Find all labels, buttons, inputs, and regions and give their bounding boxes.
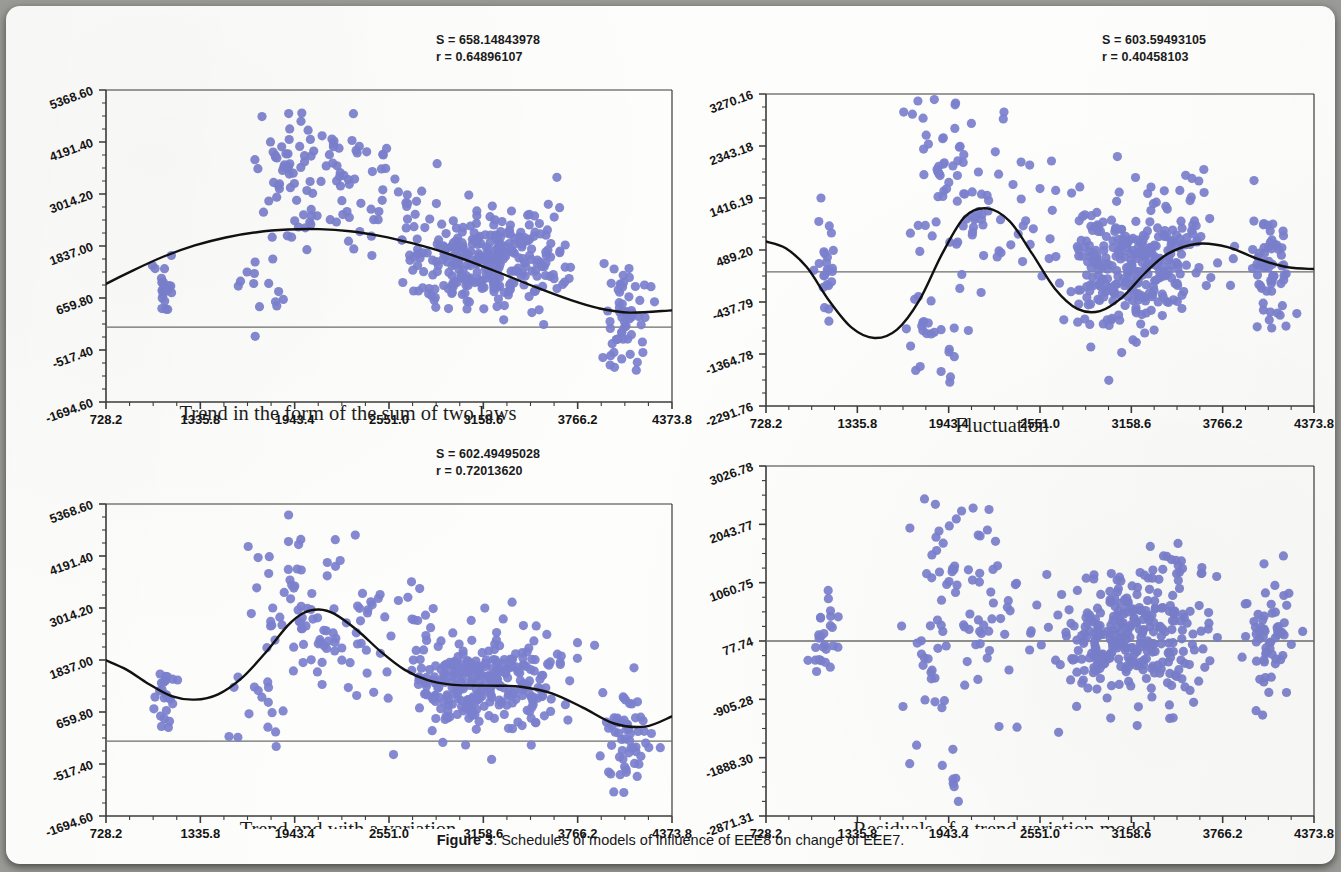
y-axis-tick-label: 1416.19 xyxy=(708,192,755,221)
data-point xyxy=(1106,621,1115,630)
figure-caption-label: Figure 3 xyxy=(437,832,493,848)
data-point xyxy=(1123,607,1132,616)
data-point xyxy=(374,207,383,216)
data-point xyxy=(457,659,466,668)
data-point xyxy=(555,247,564,256)
data-point xyxy=(268,708,277,717)
data-point xyxy=(950,324,959,333)
data-point xyxy=(431,293,440,302)
data-point xyxy=(1238,653,1247,662)
data-point xyxy=(1017,158,1026,167)
data-point xyxy=(1146,183,1155,192)
data-point xyxy=(507,206,516,215)
data-point xyxy=(535,219,544,228)
data-point xyxy=(604,767,613,776)
data-point xyxy=(1021,216,1030,225)
data-point xyxy=(573,654,582,663)
data-point xyxy=(352,691,361,700)
data-point xyxy=(330,638,339,647)
data-point xyxy=(285,124,294,133)
data-point xyxy=(533,272,542,281)
data-point xyxy=(157,678,166,687)
data-point xyxy=(1089,663,1098,672)
data-point xyxy=(1104,376,1113,385)
data-point xyxy=(1029,224,1038,233)
data-point xyxy=(162,706,171,715)
data-point xyxy=(1168,591,1177,600)
data-point xyxy=(499,614,508,623)
y-axis-tick-label: -437.79 xyxy=(710,296,755,324)
data-point xyxy=(281,149,290,158)
data-point xyxy=(1197,569,1206,578)
data-point xyxy=(426,623,435,632)
data-point xyxy=(1012,723,1021,732)
data-point xyxy=(964,565,973,574)
data-point xyxy=(1137,237,1146,246)
data-point xyxy=(1146,542,1155,551)
data-point xyxy=(1150,240,1159,249)
data-point xyxy=(951,100,960,109)
data-point xyxy=(1147,684,1156,693)
data-point xyxy=(921,221,930,230)
panel-caption-2: Trend and with a variation xyxy=(18,818,678,829)
data-point xyxy=(1133,583,1142,592)
data-point xyxy=(467,636,476,645)
data-point xyxy=(289,643,298,652)
data-point xyxy=(520,258,529,267)
plot-data-area xyxy=(106,71,672,375)
data-point xyxy=(1072,636,1081,645)
data-point xyxy=(1124,653,1133,662)
data-point xyxy=(1131,306,1140,315)
data-point xyxy=(826,621,835,630)
data-point xyxy=(834,612,843,621)
data-point xyxy=(1287,640,1296,649)
plot-data-area xyxy=(766,95,1314,387)
data-point xyxy=(160,264,169,273)
data-point xyxy=(609,348,618,357)
data-point xyxy=(1170,279,1179,288)
data-point xyxy=(263,723,272,732)
y-axis-tick-label: 3014.20 xyxy=(48,188,95,217)
data-point xyxy=(619,335,628,344)
data-point xyxy=(1045,254,1054,263)
data-point xyxy=(1173,539,1182,548)
data-point xyxy=(931,500,940,509)
data-point xyxy=(164,284,173,293)
data-point xyxy=(607,279,616,288)
data-point xyxy=(1046,234,1055,243)
data-point xyxy=(1048,206,1057,215)
data-point xyxy=(1281,322,1290,331)
data-point xyxy=(382,667,391,676)
data-point xyxy=(447,282,456,291)
data-point xyxy=(1199,165,1208,174)
data-point xyxy=(417,187,426,196)
data-point xyxy=(1273,308,1282,317)
data-point xyxy=(964,326,973,335)
data-point xyxy=(412,197,421,206)
data-point xyxy=(1150,596,1159,605)
data-point xyxy=(339,171,348,180)
data-point xyxy=(824,317,833,326)
data-point xyxy=(1057,590,1066,599)
data-point xyxy=(974,167,983,176)
data-point xyxy=(297,565,306,574)
data-point xyxy=(1260,627,1269,636)
data-point xyxy=(264,683,273,692)
data-point xyxy=(525,707,534,716)
data-point xyxy=(1051,186,1060,195)
data-point xyxy=(1079,675,1088,684)
data-point xyxy=(912,741,921,750)
data-point xyxy=(233,733,242,742)
data-point xyxy=(924,319,933,328)
data-point xyxy=(1139,246,1148,255)
data-point xyxy=(478,648,487,657)
data-point xyxy=(1179,647,1188,656)
data-point xyxy=(1266,227,1275,236)
data-point xyxy=(304,126,313,135)
data-point xyxy=(826,606,835,615)
data-point xyxy=(1072,668,1081,677)
data-point xyxy=(983,654,992,663)
data-point xyxy=(633,772,642,781)
data-point xyxy=(1259,220,1268,229)
data-point xyxy=(915,247,924,256)
